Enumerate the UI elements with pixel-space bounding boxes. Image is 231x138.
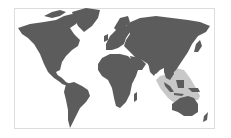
world-map [0, 0, 231, 138]
madagascar [134, 92, 137, 102]
india [148, 62, 158, 76]
africa [98, 54, 138, 108]
greenland [72, 8, 100, 32]
south-america [64, 82, 90, 128]
new-zealand [203, 112, 208, 122]
japan [194, 40, 202, 52]
north-america [18, 14, 80, 82]
british-isles [104, 34, 108, 42]
